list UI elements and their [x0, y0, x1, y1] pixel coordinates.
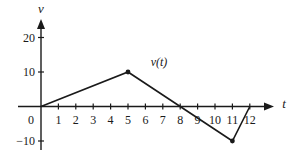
velocity-chart: 123456789101112−101020 0tvv(t): [0, 0, 290, 168]
ticks: 123456789101112−101020: [16, 31, 256, 149]
y-tick-label: −10: [16, 134, 35, 148]
origin-label: 0: [28, 113, 34, 127]
y-axis-arrow-icon: [37, 19, 45, 29]
x-axis-arrow-icon: [264, 103, 274, 111]
data-point-marker: [126, 70, 131, 75]
x-tick-label: 8: [177, 113, 183, 127]
x-axis-label: t: [282, 96, 286, 111]
x-tick-label: 4: [108, 113, 114, 127]
x-tick-label: 5: [125, 113, 131, 127]
data-point-marker: [230, 139, 235, 144]
x-tick-label: 10: [209, 113, 221, 127]
x-tick-label: 2: [73, 113, 79, 127]
series-label: v(t): [151, 55, 168, 69]
x-tick-label: 3: [90, 113, 96, 127]
x-tick-label: 6: [142, 113, 148, 127]
y-tick-label: 20: [23, 31, 35, 45]
y-axis-label: v: [38, 1, 44, 16]
x-tick-label: 11: [227, 113, 239, 127]
x-tick-label: 1: [55, 113, 61, 127]
x-tick-label: 7: [160, 113, 166, 127]
labels: 0tvv(t): [28, 1, 286, 127]
y-tick-label: 10: [23, 65, 35, 79]
